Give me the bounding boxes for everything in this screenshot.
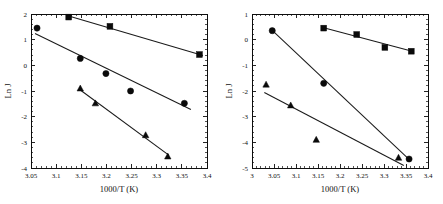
chart-panel-right: 33.053.13.153.23.253.33.353.4-5-4-3-2-10… <box>221 0 443 204</box>
data-point-circle <box>181 100 187 106</box>
y-tick-label: -3 <box>242 113 248 121</box>
y-axis-title: Ln J <box>3 83 13 99</box>
y-tick-label: 2 <box>24 11 28 19</box>
data-point-triangle <box>263 81 269 87</box>
plot-frame <box>31 14 207 168</box>
data-point-triangle <box>165 153 171 159</box>
y-tick-label: -1 <box>242 62 248 70</box>
data-point-circle <box>77 55 83 61</box>
x-axis-title: 1000/T (K) <box>321 184 359 194</box>
fit-line-square <box>324 28 412 51</box>
x-tick-label: 3.1 <box>52 172 61 180</box>
data-point-triangle <box>142 132 148 138</box>
x-tick-label: 3.3 <box>380 172 389 180</box>
data-point-triangle <box>313 136 319 142</box>
y-axis-title: Ln J <box>224 83 234 99</box>
x-tick-label: 3.4 <box>203 172 212 180</box>
y-tick-label: -1 <box>21 88 27 96</box>
figure-container: 3.053.13.153.23.253.33.353.4-4-3-2-10121… <box>0 0 443 204</box>
x-tick-label: 3 <box>250 172 254 180</box>
x-axis-title: 1000/T (K) <box>100 184 138 194</box>
y-tick-label: -3 <box>21 139 27 147</box>
y-tick-label: -4 <box>21 165 27 173</box>
data-point-circle <box>34 25 40 31</box>
y-tick-label: -5 <box>242 165 248 173</box>
data-point-circle <box>269 28 275 34</box>
x-tick-label: 3.35 <box>400 172 413 180</box>
data-point-square <box>321 25 327 31</box>
data-point-circle <box>406 156 412 162</box>
data-point-circle <box>321 80 327 86</box>
x-tick-label: 3.3 <box>152 172 161 180</box>
y-tick-label: -2 <box>21 113 27 121</box>
x-tick-label: 3.2 <box>102 172 111 180</box>
x-tick-label: 3.1 <box>292 172 301 180</box>
y-tick-label: 1 <box>24 36 28 44</box>
data-point-square <box>354 32 360 38</box>
x-tick-label: 3.25 <box>356 172 369 180</box>
x-tick-label: 3.2 <box>336 172 345 180</box>
x-tick-label: 3.35 <box>176 172 189 180</box>
fit-line-triangle <box>79 89 169 155</box>
y-tick-label: -2 <box>242 88 248 96</box>
y-tick-label: 0 <box>24 62 28 70</box>
y-tick-label: -4 <box>242 139 248 147</box>
fit-line-triangle <box>264 93 403 166</box>
fit-line-circle <box>272 30 409 159</box>
y-tick-label: 1 <box>245 11 249 19</box>
x-tick-label: 3.05 <box>268 172 281 180</box>
x-tick-label: 3.15 <box>75 172 88 180</box>
x-tick-label: 3.05 <box>25 172 38 180</box>
fit-line-square <box>69 16 203 56</box>
data-point-triangle <box>395 154 401 160</box>
y-tick-label: 0 <box>245 36 249 44</box>
x-tick-label: 3.4 <box>424 172 433 180</box>
data-point-square <box>382 44 388 50</box>
x-tick-label: 3.25 <box>125 172 138 180</box>
chart-svg-left: 3.053.13.153.23.253.33.353.4-4-3-2-10121… <box>0 0 222 204</box>
plot-frame <box>252 14 428 168</box>
chart-svg-right: 33.053.13.153.23.253.33.353.4-5-4-3-2-10… <box>221 0 443 204</box>
data-point-square <box>107 23 113 29</box>
data-point-triangle <box>77 85 83 91</box>
data-point-circle <box>103 70 109 76</box>
x-tick-label: 3.15 <box>312 172 325 180</box>
data-point-square <box>66 14 72 20</box>
data-point-square <box>408 48 414 54</box>
data-point-square <box>197 52 203 58</box>
chart-panel-left: 3.053.13.153.23.253.33.353.4-4-3-2-10121… <box>0 0 222 204</box>
data-point-circle <box>127 88 133 94</box>
